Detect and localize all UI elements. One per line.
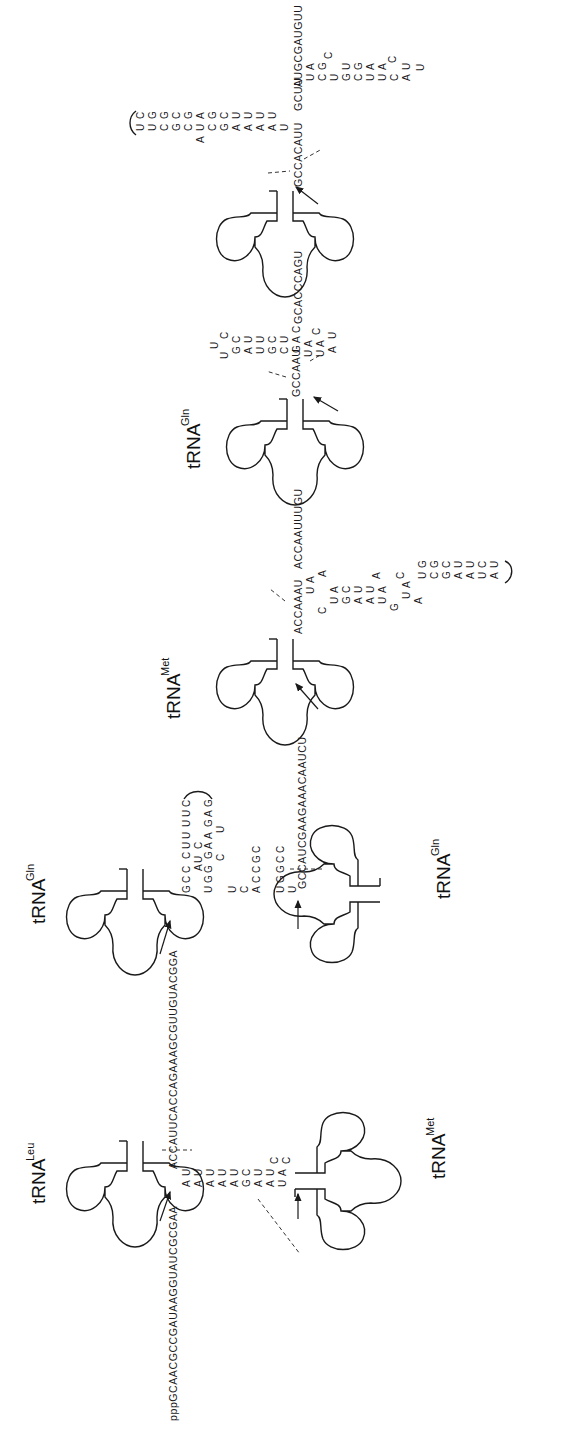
met2-stem: UA CA UA GC AU AU UAA G UAC A UG CG GC A… <box>305 560 512 614</box>
svg-text:G: G <box>417 560 428 568</box>
svg-text:A: A <box>365 63 376 70</box>
svg-text:U: U <box>275 886 286 893</box>
svg-text:A: A <box>465 572 476 579</box>
svg-text:A: A <box>267 124 278 131</box>
svg-text:A: A <box>305 63 316 70</box>
svg-text:G: G <box>241 1179 252 1187</box>
svg-text:U: U <box>181 832 192 839</box>
svg-text:G: G <box>203 851 214 859</box>
svg-text:U: U <box>229 1169 240 1176</box>
leader-sequence: pppGCAACGCCGAUAAGGUAUCGCGAA <box>167 1206 179 1421</box>
svg-text:C: C <box>429 572 440 579</box>
svg-text:A: A <box>193 1180 204 1187</box>
svg-text:C: C <box>353 74 364 81</box>
svg-text:A: A <box>205 1180 216 1187</box>
svg-text:C: C <box>181 852 192 859</box>
svg-text:U: U <box>181 820 192 827</box>
svg-text:C: C <box>181 876 192 883</box>
svg-text:G: G <box>183 111 194 119</box>
svg-text:U: U <box>279 336 290 343</box>
svg-text:C: C <box>239 886 250 893</box>
svg-text:C: C <box>317 74 328 81</box>
svg-text:C: C <box>395 572 406 579</box>
trna-precursor-diagram: tRNA Leu pppGCAACGCCGAUAAGGUAUCGCGAA ACC… <box>0 0 573 1449</box>
svg-text:U: U <box>329 597 340 604</box>
svg-text:tRNA: tRNA <box>183 423 204 469</box>
trna-leu-label: tRNA Leu <box>24 1143 49 1204</box>
svg-text:C: C <box>207 124 218 131</box>
svg-text:U: U <box>477 572 488 579</box>
svg-text:U: U <box>231 112 242 119</box>
svg-text:C: C <box>171 112 182 119</box>
svg-text:U: U <box>193 1169 204 1176</box>
svg-text:G: G <box>231 346 242 354</box>
svg-text:C: C <box>251 876 262 883</box>
svg-text:G: G <box>441 571 452 579</box>
svg-text:A: A <box>181 1180 192 1187</box>
leu-gln-spacer: ACCAUUCACCAGAAAGCGUUGUACGGA <box>167 950 179 1169</box>
svg-text:U: U <box>265 1169 276 1176</box>
svg-text:Gln: Gln <box>429 839 441 856</box>
svg-text:U: U <box>255 336 266 343</box>
svg-text:U: U <box>147 124 158 131</box>
svg-text:U: U <box>353 586 364 593</box>
svg-text:C: C <box>219 112 230 119</box>
cleavage-arrow-gln-3 <box>314 397 338 411</box>
svg-text:C: C <box>291 326 302 333</box>
svg-text:U: U <box>489 561 500 568</box>
svg-text:G: G <box>251 855 262 863</box>
met2-trailer: ACCAAAU <box>292 579 304 634</box>
svg-text:U: U <box>203 886 214 893</box>
leu-met-stem: AU AU AU AU AU GC AU AU UA CC <box>181 1157 292 1187</box>
svg-text:G: G <box>203 819 214 827</box>
svg-text:A: A <box>327 346 338 353</box>
trna-met-cloverleaf-1 <box>295 1113 401 1250</box>
svg-text:A: A <box>195 112 206 119</box>
trna-gln-cloverleaf-2 <box>274 826 380 963</box>
svg-text:U: U <box>243 112 254 119</box>
svg-text:C: C <box>219 332 230 339</box>
svg-text:A: A <box>317 570 328 577</box>
svg-text:C: C <box>323 52 334 59</box>
svg-text:A: A <box>203 832 214 839</box>
gln-met-spacer: GCCAUCGAAGAAACAAUCU <box>296 736 308 889</box>
svg-text:A: A <box>377 63 388 70</box>
trna-met-cloverleaf-2 <box>217 639 354 745</box>
svg-text:G: G <box>181 885 192 893</box>
svg-text:C: C <box>275 856 286 863</box>
svg-text:C: C <box>269 1157 280 1164</box>
trna-gln-cloverleaf-1 <box>67 869 204 975</box>
svg-text:U: U <box>181 810 192 817</box>
svg-text:A: A <box>203 810 214 817</box>
svg-text:A: A <box>229 1180 240 1187</box>
svg-text:A: A <box>303 340 314 347</box>
svg-text:A: A <box>329 586 340 593</box>
svg-text:U: U <box>255 347 266 354</box>
svg-text:A: A <box>253 1180 264 1187</box>
svg-text:C: C <box>251 866 262 873</box>
svg-text:A: A <box>401 581 412 588</box>
trna-gln-label-1: tRNA Gln <box>24 864 49 924</box>
svg-text:U: U <box>253 1169 264 1176</box>
trna-met-label-2: tRNA Met <box>159 658 184 719</box>
svg-text:C: C <box>231 336 242 343</box>
svg-text:C: C <box>281 1157 292 1164</box>
svg-text:G: G <box>171 123 182 131</box>
final-right-stem: UA CG UC GU CG UA UA CC AU U <box>305 52 426 81</box>
svg-text:U: U <box>315 350 326 357</box>
svg-text:U: U <box>303 350 314 357</box>
svg-text:U: U <box>377 597 388 604</box>
svg-text:U: U <box>401 592 412 599</box>
svg-text:G: G <box>353 62 364 70</box>
svg-text:U: U <box>453 561 464 568</box>
svg-text:U: U <box>377 74 388 81</box>
svg-text:tRNA: tRNA <box>163 673 184 719</box>
svg-text:A: A <box>291 336 302 343</box>
svg-text:A: A <box>231 124 242 131</box>
gln3-stem: GAC UA UAC AU CU GC UU AU GC UC U <box>209 326 338 359</box>
svg-text:Gln: Gln <box>24 864 36 881</box>
svg-text:C: C <box>317 607 328 614</box>
svg-text:U: U <box>417 572 428 579</box>
svg-text:A: A <box>203 842 214 849</box>
svg-text:A: A <box>195 136 206 143</box>
